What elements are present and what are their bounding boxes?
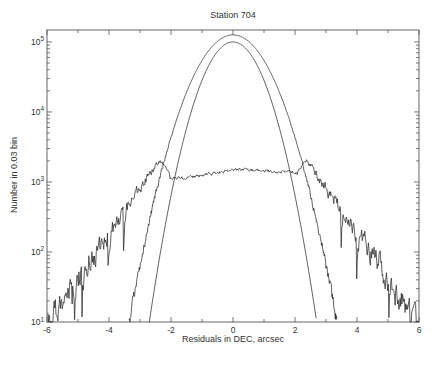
x-tick-label: 6 [417, 325, 422, 335]
y-tick-label: 102 [31, 245, 44, 257]
x-axis-label: Residuals in DEC, arcsec [47, 334, 419, 344]
series-residuals-histogram [129, 35, 337, 322]
y-tick-label: 104 [31, 105, 44, 117]
series-broad-noise-floor [48, 160, 418, 322]
chart-canvas: -6-4-20246101102103104105 [0, 0, 436, 365]
x-tick-label: -2 [167, 325, 175, 335]
y-tick-label: 103 [31, 175, 44, 187]
x-tick-label: 0 [231, 325, 236, 335]
series-gaussian-fit [149, 42, 316, 322]
chart-title: Station 704 [47, 10, 419, 20]
figure: -6-4-20246101102103104105 Station 704 Re… [0, 0, 436, 365]
x-tick-label: 4 [355, 325, 360, 335]
y-tick-label: 105 [31, 35, 44, 47]
y-axis-label: Number in 0.03 bin [9, 119, 19, 231]
x-tick-label: 2 [293, 325, 298, 335]
x-tick-label: -4 [105, 325, 113, 335]
plot-box [47, 30, 419, 322]
x-tick-label: -6 [43, 325, 51, 335]
